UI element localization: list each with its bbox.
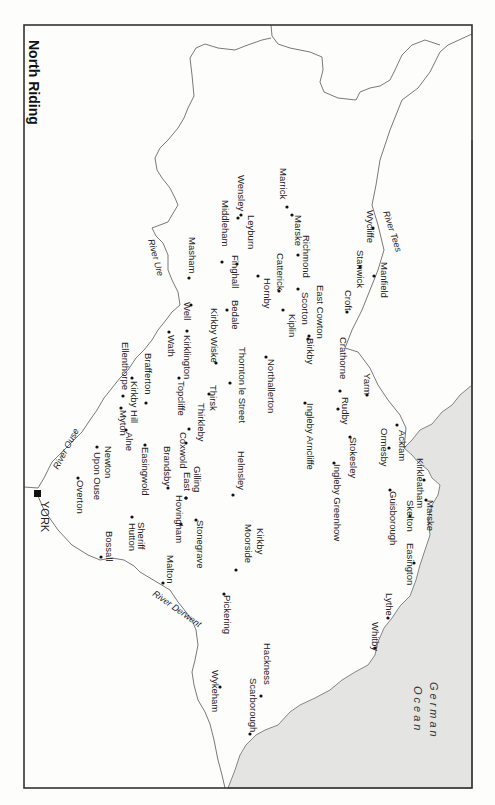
place-label: Yarm	[362, 373, 373, 395]
place-label: Masham	[187, 237, 198, 274]
place-marker: Pickering	[222, 592, 233, 634]
place-label: Stokesley	[348, 437, 359, 478]
river-label: River Ouse	[51, 426, 81, 470]
place-label: Scarborough	[248, 678, 259, 732]
place-label: Richmond	[301, 235, 312, 278]
place-label: Middleham	[220, 200, 231, 247]
place-marker: Ingleby Arncliffe	[303, 401, 316, 470]
place-label: Easingwold	[140, 447, 151, 496]
place-dot-icon	[177, 376, 180, 379]
place-dot-icon	[144, 401, 147, 404]
place-label: Catterick	[275, 253, 286, 291]
river-label: River Ure	[146, 238, 165, 277]
place-marker: Kirkby Wiske	[209, 308, 220, 365]
place-marker: Easington	[405, 543, 416, 585]
place-dot-icon	[296, 253, 299, 256]
place-label: Ormesby	[379, 428, 390, 467]
place-marker: Finghall	[230, 255, 241, 288]
place-label: Wycliffe	[365, 210, 376, 243]
place-label: Kirkby	[255, 528, 266, 555]
place-marker: Moorside	[234, 524, 254, 572]
place-marker: Ellenthorpe	[120, 342, 131, 398]
place-marker: Well	[182, 302, 193, 320]
place-marker: Newton	[103, 446, 114, 478]
place-marker: Manfield	[372, 262, 390, 298]
place-label: Croft	[343, 290, 354, 311]
place-marker: Kirkby	[255, 528, 266, 555]
place-label: Stanwick	[355, 250, 366, 288]
place-marker: Marrick	[278, 168, 289, 209]
place-label: Thornton le Street	[237, 347, 248, 423]
place-label: Malton	[165, 555, 176, 584]
place-label: Brafferton	[143, 353, 154, 395]
place-dot-icon	[225, 308, 228, 311]
place-marker: Helmsley	[231, 451, 247, 497]
place-dot-icon	[121, 394, 124, 397]
place-label: Birkby	[305, 338, 316, 365]
river-label: River Tees	[381, 210, 404, 254]
place-label: Moorside	[243, 524, 254, 563]
place-label: Hutton	[127, 523, 138, 551]
place-label: Kiplin	[287, 314, 298, 337]
place-label: Alne	[124, 432, 135, 451]
place-marker: Overton	[75, 476, 86, 513]
place-marker: Guisborough	[388, 488, 399, 545]
place-label: Leyburn	[246, 215, 257, 249]
place-marker: Upon Ouse	[92, 445, 103, 500]
place-marker: Thornton le Street	[228, 347, 248, 423]
place-marker: Kiplin	[281, 308, 298, 337]
place-dot-icon	[285, 205, 288, 208]
place-marker: Croft	[343, 290, 354, 314]
place-dot-icon	[220, 260, 223, 263]
place-label: Marske	[425, 500, 436, 531]
place-marker: Coxwold	[178, 432, 189, 468]
place-marker: Crathorne	[338, 337, 349, 393]
place-marker: Middleham	[220, 200, 231, 264]
place-label: Easington	[405, 543, 416, 585]
place-marker: Lythe	[384, 593, 395, 620]
place-label: Brandsby	[162, 446, 173, 486]
place-dot-icon	[336, 407, 339, 410]
place-label: Hovingham	[174, 495, 185, 543]
place-marker: Brafferton	[143, 353, 154, 405]
place-marker: Hutton	[127, 515, 138, 551]
york-label: YORK	[39, 501, 51, 533]
place-dot-icon	[167, 330, 170, 333]
river-label: River Derwent	[151, 588, 204, 629]
place-label: Kirklington	[182, 335, 193, 379]
place-label: Upon Ouse	[92, 452, 103, 500]
place-label: Bossall	[104, 531, 115, 562]
place-dot-icon	[236, 216, 239, 219]
place-dot-icon	[228, 381, 231, 384]
place-label: Hornby	[262, 278, 273, 309]
place-marker: Ingleby Greenhow	[332, 461, 343, 541]
place-marker: Wath	[166, 330, 177, 356]
place-label: Ingleby Greenhow	[332, 464, 343, 541]
place-label: Lythe	[384, 593, 395, 616]
place-marker: Bedale	[225, 300, 241, 330]
place-markers: MarskeMarrickWensleyLeyburnMiddlehamWycl…	[75, 168, 436, 736]
place-label: Helmsley	[236, 451, 247, 490]
place-marker: Scarborough	[248, 678, 259, 736]
place-marker: Wycliffe	[365, 210, 376, 243]
place-label: Finghall	[230, 255, 241, 288]
place-marker: Wykeham	[210, 670, 222, 712]
place-marker: Ormesby	[379, 428, 391, 467]
place-label: Kirkby Wiske	[209, 308, 220, 363]
place-label: Ingleby Arncliffe	[305, 403, 316, 470]
place-marker: Topcliffe	[176, 376, 187, 415]
place-label: Acklam	[397, 430, 408, 461]
place-dot-icon	[256, 274, 259, 277]
place-dot-icon	[296, 287, 299, 290]
place-dot-icon	[338, 389, 341, 392]
place-label: Manfield	[379, 262, 390, 298]
place-marker: Kirklington	[182, 329, 193, 379]
place-label: Thirkleby	[196, 403, 207, 442]
place-marker: Hornby	[256, 274, 273, 308]
place-marker: Wensley	[236, 175, 247, 220]
place-marker: Easingwold	[140, 443, 151, 495]
place-label: Scorton	[300, 292, 311, 325]
place-dot-icon	[161, 581, 164, 584]
place-dot-icon	[130, 515, 133, 518]
north-riding-map: North Riding German Ocean YORK River Tee…	[0, 0, 495, 805]
